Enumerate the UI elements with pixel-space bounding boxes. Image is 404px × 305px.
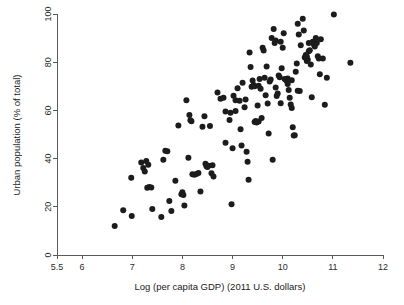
data-point (347, 60, 353, 66)
data-point (273, 85, 279, 91)
data-point (300, 16, 306, 22)
data-point (280, 45, 286, 51)
data-point (175, 123, 181, 129)
data-point (271, 26, 277, 32)
y-tick-label: 80 (43, 57, 53, 67)
x-tick-label: 5.5 (51, 262, 64, 272)
data-point (145, 162, 151, 168)
data-point (244, 149, 250, 155)
x-tick-label: 9 (230, 262, 235, 272)
data-point (185, 155, 191, 161)
data-point (278, 100, 284, 106)
y-tick-label: 0 (43, 252, 53, 257)
data-point (286, 87, 292, 93)
data-point (275, 91, 281, 97)
data-point (240, 80, 246, 86)
data-point (324, 75, 330, 81)
data-point (227, 117, 233, 123)
data-point (281, 30, 287, 36)
data-point (295, 88, 301, 94)
x-tick-label: 6 (80, 262, 85, 272)
data-point (289, 77, 295, 83)
data-point (129, 213, 135, 219)
data-point (207, 123, 213, 129)
data-point (168, 208, 174, 214)
data-point (306, 40, 312, 46)
data-point (181, 203, 187, 209)
data-point (239, 143, 245, 149)
data-point (172, 178, 178, 184)
scatter-plot-figure: 5.56789101112 020406080100 Log (per capi… (0, 0, 404, 305)
x-tick-label: 7 (130, 262, 135, 272)
data-point (164, 148, 170, 154)
x-axis-ticks: 5.56789101112 (51, 255, 388, 272)
x-tick-label: 8 (180, 262, 185, 272)
data-point (262, 75, 268, 81)
data-point (248, 64, 254, 70)
data-point (186, 112, 192, 118)
data-point (247, 50, 253, 56)
data-point (214, 90, 220, 96)
data-point (294, 60, 300, 66)
data-point (263, 92, 269, 98)
y-tick-label: 20 (43, 202, 53, 212)
data-point (255, 103, 261, 109)
data-point (296, 31, 302, 37)
y-tick-label: 40 (43, 154, 53, 164)
data-point (301, 27, 307, 33)
data-point (257, 76, 263, 82)
data-point (160, 157, 166, 163)
data-point (256, 118, 262, 124)
data-point (289, 105, 295, 111)
data-point (230, 145, 236, 151)
data-point (320, 56, 326, 62)
data-point (209, 162, 215, 168)
data-point (318, 36, 324, 42)
data-point (292, 132, 298, 138)
data-point (309, 94, 315, 100)
data-point (266, 131, 272, 137)
plot-canvas: 5.56789101112 020406080100 Log (per capi… (0, 0, 404, 305)
data-point (331, 11, 337, 17)
data-point (195, 170, 201, 176)
data-point (279, 65, 285, 71)
y-tick-label: 60 (43, 105, 53, 115)
data-point (242, 104, 248, 110)
data-point (188, 118, 194, 124)
data-point (229, 201, 235, 207)
data-point (210, 173, 216, 179)
data-point (278, 39, 284, 45)
data-point (295, 21, 301, 27)
data-point (235, 85, 241, 91)
y-axis-ticks: 020406080100 (43, 6, 57, 257)
data-point (197, 188, 203, 194)
y-axis-title: Urban population (% of total) (11, 75, 22, 196)
data-point (322, 102, 328, 108)
data-point (238, 126, 244, 132)
data-point (270, 157, 276, 163)
data-point (180, 192, 186, 198)
data-point (243, 97, 249, 103)
data-point (149, 206, 155, 212)
data-point (201, 113, 207, 119)
data-point (273, 38, 279, 44)
data-point (287, 95, 293, 101)
data-point (317, 71, 323, 77)
data-point (233, 97, 239, 103)
data-point (304, 53, 310, 59)
data-point (199, 124, 205, 130)
data-point (128, 175, 134, 181)
data-point (246, 177, 252, 183)
data-point (148, 185, 154, 191)
data-point (183, 97, 189, 103)
data-point (120, 207, 126, 213)
data-point (221, 95, 227, 101)
x-tick-label: 10 (278, 262, 288, 272)
data-point (307, 47, 313, 53)
data-point (290, 124, 296, 130)
data-point (142, 169, 148, 175)
data-point (158, 214, 164, 220)
data-point (265, 100, 271, 106)
x-axis-title: Log (per capita GDP) (2011 U.S. dollars) (135, 281, 306, 292)
data-point (298, 42, 304, 48)
